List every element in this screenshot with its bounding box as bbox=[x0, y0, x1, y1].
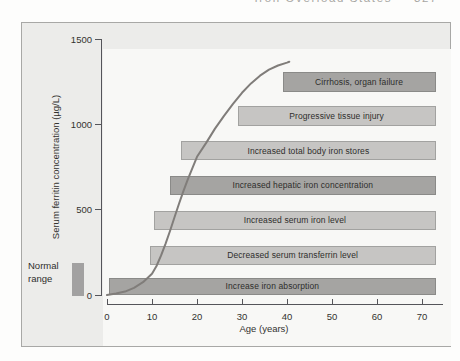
x-axis-tick-label: 20 bbox=[182, 311, 212, 322]
stage-bar: Increased hepatic iron concentration bbox=[170, 176, 436, 196]
x-axis-tick bbox=[422, 299, 423, 304]
normal-range-label: Normal range bbox=[28, 259, 59, 285]
x-axis-tick bbox=[377, 299, 378, 304]
stage-bar: Decreased serum transferrin level bbox=[150, 246, 436, 266]
stage-bar: Progressive tissue injury bbox=[238, 106, 436, 126]
stage-bar: Increase iron absorption bbox=[109, 278, 435, 295]
x-axis-tick-label: 30 bbox=[227, 311, 257, 322]
stage-bar-label: Increased total body iron stores bbox=[247, 146, 369, 156]
x-axis-tick bbox=[242, 299, 243, 304]
stage-bar-label: Cirrhosis, organ failure bbox=[315, 77, 403, 87]
y-axis-tick-label: 500 bbox=[76, 204, 92, 215]
x-axis-tick-label: 10 bbox=[137, 311, 167, 322]
x-axis-tick bbox=[107, 299, 108, 304]
stage-bar: Increased serum iron level bbox=[154, 211, 435, 231]
stage-bar: Cirrhosis, organ failure bbox=[283, 72, 436, 92]
running-header-page-number: 327 bbox=[414, 0, 438, 4]
y-axis-tick bbox=[95, 295, 102, 296]
stage-bar-label: Increase iron absorption bbox=[226, 281, 320, 291]
y-axis-tick-label: 1000 bbox=[71, 119, 92, 130]
x-axis-tick-label: 60 bbox=[362, 311, 392, 322]
y-axis-tick bbox=[95, 209, 102, 210]
stage-bar: Increased total body iron stores bbox=[181, 141, 435, 160]
y-axis-tick bbox=[95, 124, 102, 125]
y-axis-tick-label: 1500 bbox=[71, 34, 92, 45]
x-axis-tick bbox=[332, 299, 333, 304]
x-axis-title: Age (years) bbox=[194, 323, 334, 334]
x-axis-tick bbox=[197, 299, 198, 304]
x-axis-tick-label: 70 bbox=[407, 311, 437, 322]
plot-area bbox=[103, 49, 451, 346]
normal-range-label-line1: Normal bbox=[28, 259, 59, 272]
y-axis-tick-label: 0 bbox=[87, 290, 92, 301]
x-axis-tick-label: 0 bbox=[92, 311, 122, 322]
x-axis-tick-label: 50 bbox=[317, 311, 347, 322]
y-axis-title: Serum ferritin concentration (µg/L) bbox=[50, 37, 64, 297]
y-axis-line bbox=[101, 39, 102, 296]
stage-bar-label: Decreased serum transferrin level bbox=[227, 250, 358, 260]
normal-range-bar bbox=[72, 263, 84, 296]
stage-bar-label: Increased serum iron level bbox=[244, 215, 346, 225]
x-axis-tick bbox=[287, 299, 288, 304]
x-axis-tick bbox=[152, 299, 153, 304]
running-header-title: Iron Overload States bbox=[255, 0, 392, 4]
normal-range-label-line2: range bbox=[28, 272, 59, 285]
x-axis-line bbox=[107, 304, 443, 305]
y-axis-tick bbox=[95, 39, 102, 40]
textbook-page: Iron Overload States 327 Serum ferritin … bbox=[0, 0, 460, 361]
x-axis-tick-label: 40 bbox=[272, 311, 302, 322]
stage-bar-label: Progressive tissue injury bbox=[289, 111, 384, 121]
stage-bar-label: Increased hepatic iron concentration bbox=[232, 180, 373, 190]
